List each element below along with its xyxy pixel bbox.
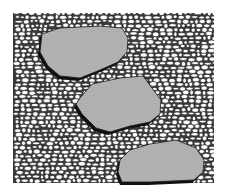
stepping-stones-illustration: [0, 0, 226, 192]
